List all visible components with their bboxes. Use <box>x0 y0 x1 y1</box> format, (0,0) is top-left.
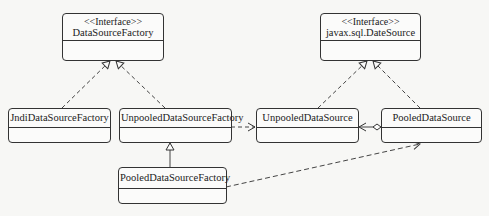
class-jndidatasourcefactory[interactable]: JndiDataSourceFactory <box>8 108 111 143</box>
class-datasourcefactory[interactable]: <<Interface>> DataSourceFactory <box>62 13 164 61</box>
class-header: UnpooledDataSourceFactory <box>120 109 231 128</box>
class-header: <<Interface>> javax.sql.DateSource <box>321 14 420 41</box>
class-body <box>382 128 481 142</box>
class-header: <<Interface>> DataSourceFactory <box>63 14 163 41</box>
class-name: UnpooledDataSource <box>262 112 352 123</box>
class-name: UnpooledDataSourceFactory <box>121 112 243 123</box>
realization-jndi-to-datasourcefactory <box>62 61 110 108</box>
class-name: PooledDataSource <box>392 112 470 123</box>
class-unpooleddatasourcefactory[interactable]: UnpooledDataSourceFactory <box>119 108 232 143</box>
class-javax-sql-datesource[interactable]: <<Interface>> javax.sql.DateSource <box>320 13 421 61</box>
class-name: JndiDataSourceFactory <box>10 112 109 123</box>
realization-unpooled-to-datesource <box>318 61 367 108</box>
realization-unpooledfactory-to-datasourcefactory <box>116 61 165 108</box>
class-body <box>321 41 420 60</box>
class-pooleddatasource[interactable]: PooledDataSource <box>381 108 482 143</box>
class-body <box>119 189 226 203</box>
class-unpooleddatasource[interactable]: UnpooledDataSource <box>256 108 359 143</box>
class-pooleddatasourcefactory[interactable]: PooledDataSourceFactory <box>118 167 227 204</box>
class-body <box>9 128 110 142</box>
realization-pooled-to-datesource <box>373 61 420 108</box>
class-header: UnpooledDataSource <box>257 109 358 128</box>
class-header: PooledDataSource <box>382 109 481 128</box>
dependency-pooledfactory-to-pooled <box>226 144 420 187</box>
class-body <box>257 128 358 142</box>
class-header: JndiDataSourceFactory <box>9 109 110 128</box>
class-body <box>120 128 231 142</box>
stereotype-label: <<Interface>> <box>64 16 162 27</box>
class-header: PooledDataSourceFactory <box>119 168 226 189</box>
class-body <box>63 41 163 60</box>
class-name: DataSourceFactory <box>72 27 153 38</box>
stereotype-label: <<Interface>> <box>322 16 419 27</box>
class-name: javax.sql.DateSource <box>326 27 415 38</box>
class-name: PooledDataSourceFactory <box>120 172 230 183</box>
